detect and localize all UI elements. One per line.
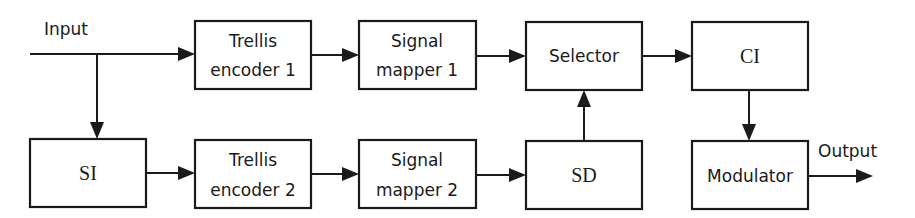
block-label: mapper 1 bbox=[376, 60, 458, 80]
block-label: encoder 1 bbox=[210, 60, 295, 80]
block-label: Modulator bbox=[707, 166, 793, 186]
output-label: Output bbox=[818, 141, 877, 161]
arrow-head-icon bbox=[509, 49, 526, 63]
arrow-head-icon bbox=[90, 122, 104, 139]
block-label: SI bbox=[79, 162, 97, 184]
arrow-head-icon bbox=[742, 124, 756, 141]
block-si: SI bbox=[30, 139, 146, 207]
arrow-head-icon bbox=[856, 169, 873, 183]
block-ci: CI bbox=[692, 22, 808, 90]
block-selector: Selector bbox=[526, 22, 642, 90]
arrow-head-icon bbox=[509, 168, 526, 182]
arrow-head-icon bbox=[342, 48, 359, 62]
block-label: mapper 2 bbox=[376, 180, 458, 200]
block-label: encoder 2 bbox=[210, 180, 295, 200]
block-label: Selector bbox=[549, 46, 619, 66]
input-label: Input bbox=[44, 19, 88, 39]
block-label: Signal bbox=[391, 150, 443, 170]
arrow-head-icon bbox=[675, 49, 692, 63]
arrow-head-icon bbox=[178, 166, 195, 180]
block-signal-mapper-1: Signal mapper 1 bbox=[359, 21, 476, 89]
block-signal-mapper-2: Signal mapper 2 bbox=[359, 140, 476, 208]
block-label: Trellis bbox=[228, 150, 277, 170]
arrow-head-icon bbox=[342, 167, 359, 181]
block-label: Signal bbox=[391, 31, 443, 51]
block-trellis-encoder-1: Trellis encoder 1 bbox=[195, 21, 311, 89]
block-label: CI bbox=[740, 45, 760, 67]
block-modulator: Modulator bbox=[692, 141, 808, 209]
arrow-head-icon bbox=[178, 47, 195, 61]
block-trellis-encoder-2: Trellis encoder 2 bbox=[195, 140, 311, 208]
block-label: Trellis bbox=[228, 31, 277, 51]
arrow-head-icon bbox=[577, 90, 591, 107]
block-label: SD bbox=[571, 164, 597, 186]
block-diagram: Input Trellis encoder 1 Signal mapper 1 … bbox=[0, 0, 915, 218]
block-sd: SD bbox=[526, 141, 642, 209]
